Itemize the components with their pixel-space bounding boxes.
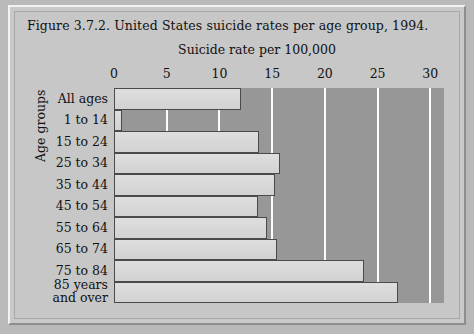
bar-row: 35 to 44 — [114, 174, 444, 196]
bar-row: 15 to 24 — [114, 131, 444, 153]
bar — [114, 174, 275, 196]
bar — [114, 282, 398, 304]
bar-row: 1 to 14 — [114, 110, 444, 132]
category-label: 85 yearsand over — [53, 280, 108, 306]
bar-row: 55 to 64 — [114, 217, 444, 239]
plot-area: 051015202530 All ages1 to 1415 to 2425 t… — [114, 88, 444, 303]
x-tick-label: 5 — [163, 66, 171, 81]
figure-frame: Figure 3.7.2. United States suicide rate… — [8, 5, 466, 325]
bar-row: 65 to 74 — [114, 239, 444, 261]
category-label: 35 to 44 — [56, 178, 108, 191]
x-tick-label: 25 — [370, 66, 386, 81]
bar-row: All ages — [114, 88, 444, 110]
x-tick-label: 30 — [422, 66, 438, 81]
x-axis-title: Suicide rate per 100,000 — [15, 42, 459, 57]
bar — [114, 153, 280, 175]
category-label: 45 to 54 — [56, 200, 108, 213]
y-axis-title: Age groups — [33, 90, 48, 162]
x-tick-label: 15 — [264, 66, 280, 81]
figure-inner-panel: Figure 3.7.2. United States suicide rate… — [14, 11, 460, 319]
category-label: 75 to 84 — [56, 264, 108, 277]
bar — [114, 131, 259, 153]
x-tick-label: 20 — [317, 66, 333, 81]
bar — [114, 239, 277, 261]
bar-row: 25 to 34 — [114, 153, 444, 175]
bar — [114, 217, 267, 239]
category-label: 1 to 14 — [64, 114, 108, 127]
category-label: 15 to 24 — [56, 135, 108, 148]
category-label: 55 to 64 — [56, 221, 108, 234]
category-label: All ages — [58, 92, 108, 105]
category-label: 25 to 34 — [56, 157, 108, 170]
x-tick-label: 10 — [211, 66, 227, 81]
bar — [114, 260, 364, 282]
bar — [114, 196, 258, 218]
figure-caption: Figure 3.7.2. United States suicide rate… — [27, 18, 428, 33]
bar-row: 85 yearsand over — [114, 282, 444, 304]
x-tick-label: 0 — [110, 66, 118, 81]
bar-row: 75 to 84 — [114, 260, 444, 282]
bar — [114, 110, 122, 132]
bar — [114, 88, 241, 110]
bar-row: 45 to 54 — [114, 196, 444, 218]
category-label: 65 to 74 — [56, 243, 108, 256]
